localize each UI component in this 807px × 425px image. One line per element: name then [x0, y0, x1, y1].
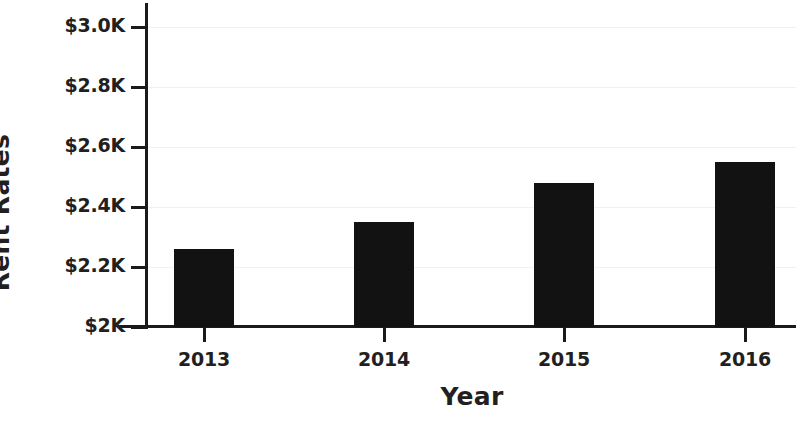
x-axis-tick — [563, 328, 566, 342]
x-axis-tick — [203, 328, 206, 342]
y-axis-tick-label: $2.6K — [5, 134, 125, 156]
gridline — [148, 207, 796, 208]
gridline — [148, 27, 796, 28]
bar-2016[interactable] — [715, 162, 775, 327]
y-axis-tick-label: $2K — [5, 314, 125, 336]
y-axis-line — [145, 3, 148, 328]
bar-2015[interactable] — [534, 183, 594, 327]
x-axis-tick-label: 2014 — [324, 348, 444, 370]
x-axis-tick-label: 2015 — [504, 348, 624, 370]
y-axis-tick — [131, 86, 148, 89]
y-axis-tick-label: $2.8K — [5, 74, 125, 96]
y-axis-tick-label: $3.0K — [5, 14, 125, 36]
x-axis-title: Year — [148, 382, 796, 411]
y-axis-tick — [131, 26, 148, 29]
gridline — [148, 147, 796, 148]
y-axis-tick — [131, 266, 148, 269]
y-axis-tick-label: $2.4K — [5, 194, 125, 216]
x-axis-tick — [744, 328, 747, 342]
y-axis-tick — [131, 326, 148, 329]
y-axis-tick — [131, 206, 148, 209]
y-axis-tick — [131, 146, 148, 149]
bar-chart: Rent Rates Year $3.0K$2.8K$2.6K$2.4K$2.2… — [0, 0, 807, 425]
plot-area — [148, 3, 796, 327]
gridline — [148, 267, 796, 268]
bar-2013[interactable] — [174, 249, 234, 327]
x-axis-tick-label: 2016 — [685, 348, 805, 370]
gridline — [148, 87, 796, 88]
x-axis-tick — [383, 328, 386, 342]
bar-2014[interactable] — [354, 222, 414, 327]
x-axis-tick-label: 2013 — [144, 348, 264, 370]
y-axis-tick-label: $2.2K — [5, 254, 125, 276]
